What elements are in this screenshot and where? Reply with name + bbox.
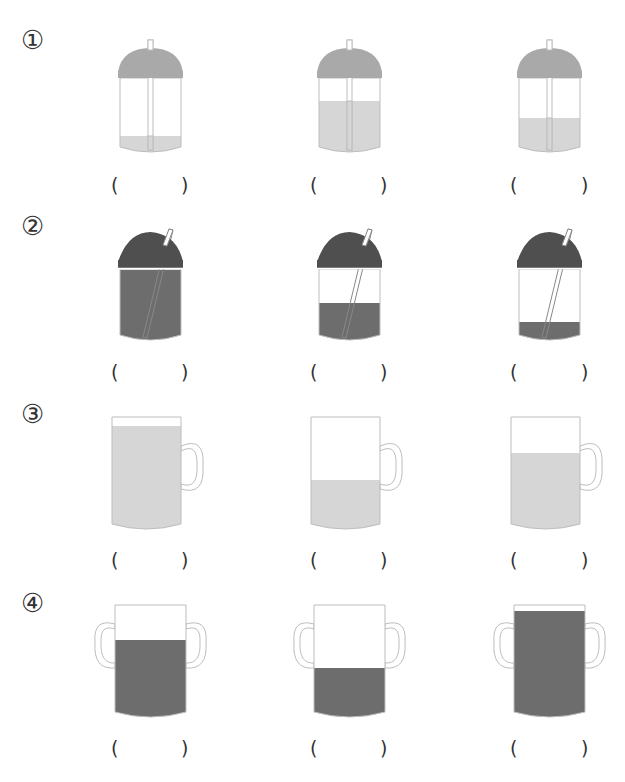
- answer-open-paren: (: [310, 176, 317, 195]
- answer-open-paren: (: [510, 363, 517, 382]
- container-q4-1: [95, 605, 206, 724]
- container-q3-2: [311, 417, 402, 536]
- answer-open-paren: (: [510, 739, 517, 758]
- container-q2-2: [317, 229, 382, 347]
- answer-close-paren: ): [181, 176, 188, 195]
- answer-open-paren: (: [111, 176, 118, 195]
- answer-close-paren: ): [181, 739, 188, 758]
- container-q1-3: [517, 40, 582, 159]
- answer-open-paren: (: [310, 739, 317, 758]
- answer-open-paren: (: [111, 363, 118, 382]
- container-q2-1: [118, 229, 183, 347]
- answer-close-paren: ): [581, 551, 588, 570]
- answer-open-paren: (: [510, 551, 517, 570]
- answer-close-paren: ): [581, 739, 588, 758]
- answer-close-paren: ): [380, 363, 387, 382]
- answer-open-paren: (: [510, 176, 517, 195]
- answer-close-paren: ): [581, 363, 588, 382]
- container-q4-3: [494, 605, 605, 724]
- container-q3-1: [112, 417, 203, 536]
- container-q3-3: [511, 417, 602, 536]
- answer-open-paren: (: [310, 363, 317, 382]
- container-q1-2: [317, 40, 382, 159]
- container-q1-1: [118, 40, 183, 159]
- answer-open-paren: (: [310, 551, 317, 570]
- answer-close-paren: ): [181, 551, 188, 570]
- answer-close-paren: ): [581, 176, 588, 195]
- answer-open-paren: (: [111, 739, 118, 758]
- containers-illustration: [0, 0, 625, 782]
- answer-open-paren: (: [111, 551, 118, 570]
- answer-close-paren: ): [380, 739, 387, 758]
- container-q4-2: [294, 605, 405, 724]
- container-q2-3: [517, 229, 582, 347]
- answer-close-paren: ): [181, 363, 188, 382]
- answer-close-paren: ): [380, 176, 387, 195]
- answer-close-paren: ): [380, 551, 387, 570]
